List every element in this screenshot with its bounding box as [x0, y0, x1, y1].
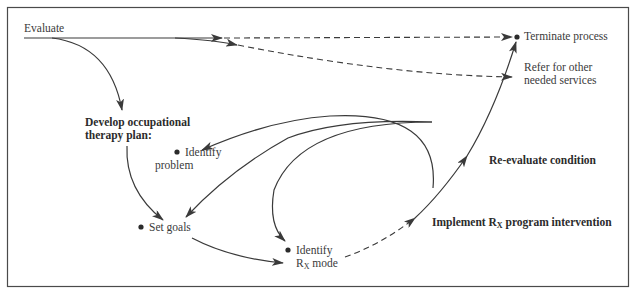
identify-problem-dot [174, 149, 179, 154]
develop-plan-label-line2: therapy plan: [85, 129, 152, 141]
edge-set-goals-to-identify-rx [192, 238, 283, 263]
edge-reevaluate-to-terminate [467, 42, 516, 156]
edge-identify-rx-to-implement [345, 218, 415, 257]
implement-rx-symbol: R [489, 216, 497, 228]
edge-evaluate-to-terminate-dashed [224, 37, 512, 38]
identify-problem-label-line1: Identify [185, 146, 221, 158]
edge-evaluate-to-develop-plan [52, 38, 122, 110]
implement-suffix: program intervention [503, 216, 612, 228]
reevaluate-label: Re-evaluate condition [489, 154, 596, 166]
implement-prefix: Implement [432, 216, 489, 228]
occupational-therapy-process-diagram: Evaluate Terminate process Refer for oth… [0, 0, 635, 307]
identify-rx-dot [285, 247, 290, 252]
identify-rx-label-line2: RX mode [296, 257, 338, 273]
terminate-label: Terminate process [524, 30, 608, 42]
refer-label-line1: Refer for other [524, 61, 592, 73]
edge-implement-to-reevaluate [415, 156, 467, 218]
set-goals-label: Set goals [149, 221, 191, 233]
set-goals-dot [138, 224, 143, 229]
edge-reevaluate-to-set-goals [186, 121, 432, 217]
edge-evaluate-to-refer-dashed [238, 45, 512, 77]
identify-problem-label-line2: problem [155, 159, 193, 171]
implement-label: Implement RX program intervention [432, 216, 612, 232]
rx-symbol: R [296, 257, 304, 269]
edge-evaluate-to-refer-solid [175, 38, 237, 45]
edge-develop-plan-to-set-goals [127, 146, 163, 220]
refer-label-line2: needed services [524, 74, 596, 86]
edge-reevaluate-to-identify-problem [202, 116, 433, 188]
rx-mode-text: mode [309, 257, 337, 269]
identify-rx-label-line1: Identify [296, 244, 332, 256]
develop-plan-label-line1: Develop occupational [85, 116, 190, 128]
terminate-dot [514, 34, 519, 39]
evaluate-label: Evaluate [24, 22, 64, 34]
